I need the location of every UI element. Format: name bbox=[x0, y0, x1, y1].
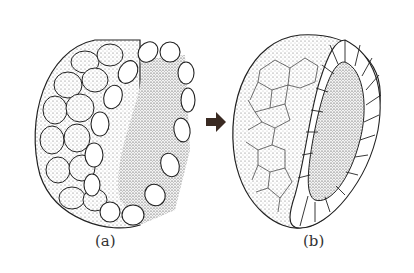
panel-b-label: (b) bbox=[303, 232, 324, 250]
panel-b-hemisphere-section bbox=[233, 35, 381, 228]
panel-a-label: (a) bbox=[95, 232, 116, 250]
panel-a-cell-cluster bbox=[35, 38, 195, 228]
transition-arrow-icon bbox=[206, 112, 226, 132]
diagram-canvas bbox=[0, 0, 414, 273]
